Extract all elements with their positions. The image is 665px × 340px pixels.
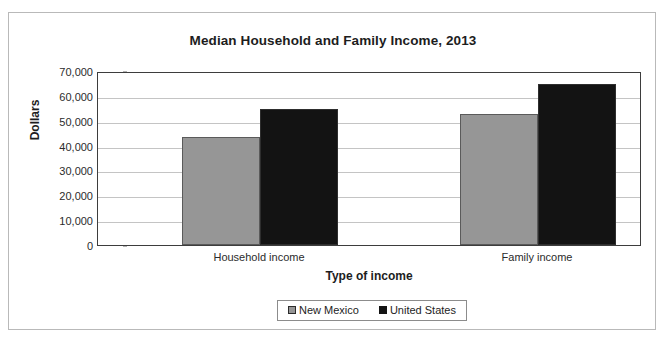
bar-united-states-household[interactable]: [260, 109, 338, 245]
x-axis-category-label: Household income: [179, 251, 339, 263]
x-axis-category-label: Family income: [457, 251, 617, 263]
y-axis-tick-label: 40,000: [39, 141, 93, 153]
y-axis-tick-label: 70,000: [39, 66, 93, 78]
legend-item-united-states[interactable]: United States: [379, 304, 456, 316]
y-axis-tick-label: 30,000: [39, 165, 93, 177]
bar-united-states-family[interactable]: [538, 84, 616, 245]
chart-container: Median Household and Family Income, 2013…: [8, 12, 656, 330]
y-axis-tick-label: 10,000: [39, 215, 93, 227]
legend-item-new-mexico[interactable]: New Mexico: [288, 304, 359, 316]
gray-square-icon: [288, 306, 296, 314]
y-axis-tick-label: 0: [39, 240, 93, 252]
black-square-icon: [379, 306, 387, 314]
y-axis-tick-label: 20,000: [39, 190, 93, 202]
legend-item-label: United States: [390, 304, 456, 316]
plot-area: [97, 72, 641, 246]
y-axis-tick-label: 50,000: [39, 116, 93, 128]
legend-item-label: New Mexico: [299, 304, 359, 316]
bar-new-mexico-family[interactable]: [460, 114, 538, 245]
bar-new-mexico-household[interactable]: [182, 137, 260, 245]
y-axis-tick-labels: 70,00060,00050,00040,00030,00020,00010,0…: [39, 72, 93, 246]
chart-title: Median Household and Family Income, 2013: [9, 33, 657, 48]
x-axis-title: Type of income: [97, 269, 641, 283]
chart-legend: New MexicoUnited States: [277, 300, 467, 321]
y-axis-tick-label: 60,000: [39, 91, 93, 103]
